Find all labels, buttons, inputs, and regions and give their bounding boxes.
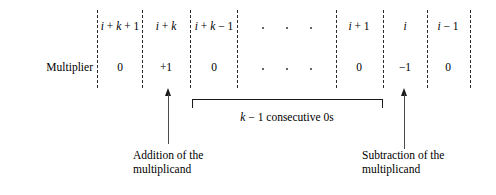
arrow-shaft [404, 94, 405, 149]
ellipsis-dot [262, 68, 264, 70]
column-divider-5 [336, 10, 337, 88]
bit-value-i-plus-1: 0 [356, 61, 362, 74]
subtraction-arrow-icon [399, 88, 410, 149]
bit-value-i: −1 [399, 61, 411, 74]
column-divider-2 [142, 10, 143, 88]
bit-value-i-plus-k-minus-1: 0 [211, 61, 217, 74]
bit-index-i-plus-k: i + k [156, 20, 177, 33]
consecutive-zeros-caption: k − 1 consecutive 0s [240, 111, 333, 124]
bit-value-i-plus-k-plus-1: 0 [117, 61, 123, 74]
column-divider-7 [427, 10, 428, 88]
column-divider-8 [470, 10, 471, 88]
ellipsis-dot [286, 27, 288, 29]
bit-index-i-plus-1: i + 1 [348, 20, 369, 33]
column-divider-1 [97, 10, 98, 88]
value-row-ellipsis [262, 67, 312, 71]
subtraction-annotation-line1: Subtraction of the [362, 148, 444, 162]
bit-index-i-minus-1: i − 1 [437, 20, 458, 33]
bit-index-i: i [403, 20, 406, 33]
ellipsis-dot [262, 27, 264, 29]
ellipsis-dot [286, 68, 288, 70]
column-divider-6 [383, 10, 384, 88]
arrow-shaft [168, 94, 169, 144]
consecutive-zeros-bracket [192, 99, 383, 108]
addition-annotation-line2: multiplicand [133, 162, 191, 176]
addition-annotation-line1: Addition of the [133, 148, 203, 162]
bit-value-i-plus-k: +1 [160, 61, 172, 74]
bit-index-i-plus-k-minus-1: i + k − 1 [195, 20, 234, 33]
subtraction-annotation-line2: multiplicand [362, 162, 420, 176]
ellipsis-dot [310, 68, 312, 70]
column-divider-4 [237, 10, 238, 88]
bit-value-i-minus-1: 0 [445, 61, 451, 74]
column-divider-3 [190, 10, 191, 88]
booth-recoding-diagram: Multiplier i + k + 1 i + k i + k − 1 i +… [0, 0, 496, 195]
row-label-multiplier: Multiplier [28, 61, 93, 74]
bit-index-i-plus-k-plus-1: i + k + 1 [101, 20, 140, 33]
index-row-ellipsis [262, 26, 312, 30]
addition-arrow-icon [163, 88, 174, 144]
ellipsis-dot [310, 27, 312, 29]
